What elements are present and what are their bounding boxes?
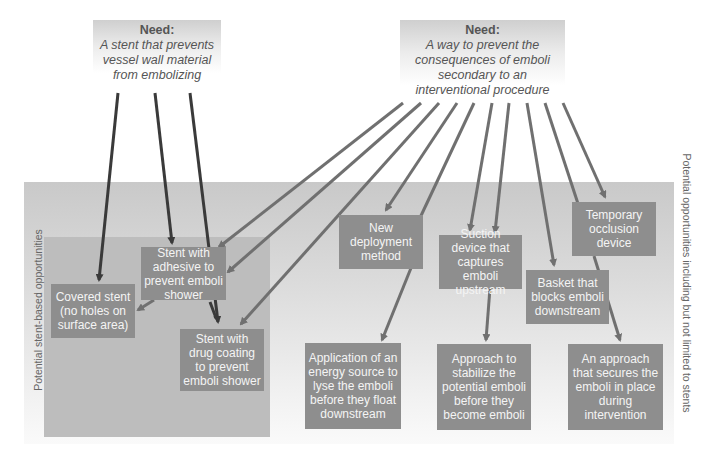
box-stent-drug: Stent with drug coating to prevent embol… xyxy=(180,329,264,391)
box-basket: Basket that blocks emboli downstream xyxy=(526,270,609,324)
box-energy-source: Application of an energy source to lyse … xyxy=(305,343,401,429)
arrow-adhesive-to-covered xyxy=(138,300,154,310)
arrow-to-energy xyxy=(382,268,411,340)
box-secures: An approach that secures the emboli in p… xyxy=(568,344,663,430)
arrow-3 xyxy=(241,103,439,324)
all-opportunities-label: Potential opportunities including but no… xyxy=(681,153,693,412)
box-temporary-occlusion: Temporary occlusion device xyxy=(572,202,656,256)
box-covered-stent: Covered stent (no holes on surface area) xyxy=(51,284,135,338)
arrow-to-covered-stent xyxy=(99,93,118,280)
box-suction-device: Suction device that captures emboli upst… xyxy=(439,235,522,289)
arrow-to-stent-adhesive xyxy=(155,93,172,243)
arrow-to-basket xyxy=(527,103,554,265)
arrow-to-suction xyxy=(470,103,492,230)
arrow-to-new-deployment xyxy=(386,103,457,210)
stent-based-label: Potential stent-based opportunities xyxy=(32,229,44,391)
arrow-5 xyxy=(495,103,509,232)
box-stabilize: Approach to stabilize the potential embo… xyxy=(437,344,531,430)
box-new-deployment: New deployment method xyxy=(339,215,423,269)
arrow-to-temporary xyxy=(563,103,605,197)
box-stent-adhesive: Stent with adhesive to prevent emboli sh… xyxy=(141,247,226,300)
